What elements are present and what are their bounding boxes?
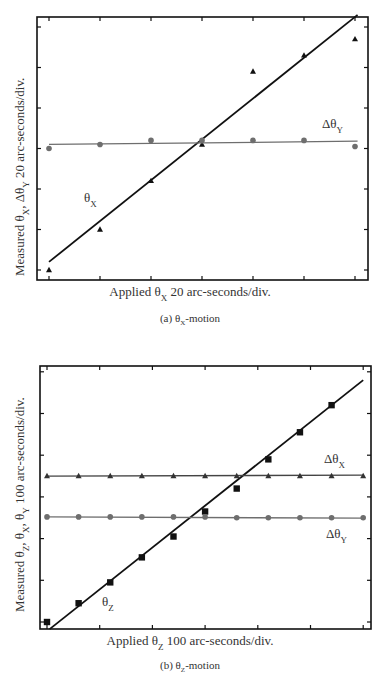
chart-a-plot (0, 0, 380, 330)
data-point-square (75, 600, 81, 606)
data-point-square (328, 402, 334, 408)
data-point-triangle (97, 226, 103, 231)
data-point-circle (234, 515, 240, 521)
data-point-square (297, 429, 303, 435)
series-θZ (44, 380, 363, 629)
figure-a-theta-x-motion: Measured θX, ΔθY 20 arc-seconds/div. App… (0, 0, 380, 330)
data-point-circle (297, 515, 303, 521)
figure-b-theta-z-motion: Measured θZ, θX, θY 100 arc-seconds/div.… (0, 330, 380, 683)
series-ΔθX (44, 473, 366, 478)
chart-a-caption: (a) θX-motion (0, 312, 380, 324)
data-point-square (170, 533, 176, 539)
data-point-circle (301, 138, 307, 144)
chart-b-y-axis-label: Measured θZ, θX, θY 100 arc-seconds/div. (12, 397, 28, 612)
plot-frame (37, 17, 368, 280)
chart-a-x-axis-label: Applied θX 20 arc-seconds/div. (0, 284, 380, 300)
data-point-circle (148, 138, 154, 144)
data-point-square (44, 619, 50, 625)
chart-b-plot (0, 330, 380, 683)
data-point-circle (352, 144, 358, 150)
data-point-circle (199, 138, 205, 144)
chart-a-series-label-delta-theta-y: ΔθY (322, 116, 343, 132)
data-point-square (107, 579, 113, 585)
data-point-circle (329, 515, 335, 521)
data-point-triangle (301, 52, 307, 57)
chart-b-series-label-theta-z: θZ (102, 594, 114, 610)
data-point-circle (266, 515, 272, 521)
chart-b-caption: (b) θZ-motion (0, 659, 380, 671)
fit-line (50, 380, 364, 629)
chart-b-series-label-delta-theta-x: ΔθX (324, 451, 345, 467)
data-point-circle (76, 514, 82, 520)
chart-b-series-label-delta-theta-y: ΔθY (326, 526, 347, 542)
data-point-square (234, 485, 240, 491)
data-point-square (265, 456, 271, 462)
data-point-circle (46, 146, 52, 152)
data-point-circle (360, 515, 366, 521)
chart-a-series-label-theta-x: θX (84, 190, 97, 206)
data-point-circle (44, 514, 50, 520)
chart-a-y-axis-label: Measured θX, ΔθY 20 arc-seconds/div. (12, 78, 28, 276)
data-point-triangle (46, 267, 52, 272)
data-point-circle (97, 142, 103, 148)
data-point-circle (250, 138, 256, 144)
data-point-circle (107, 514, 113, 520)
data-point-circle (202, 514, 208, 520)
data-point-circle (171, 514, 177, 520)
data-point-circle (139, 514, 145, 520)
plot-frame (40, 366, 371, 629)
data-point-triangle (352, 36, 358, 41)
data-point-square (202, 508, 208, 514)
data-point-square (139, 554, 145, 560)
series-ΔθY (44, 514, 366, 520)
chart-b-x-axis-label: Applied θZ 100 arc-seconds/div. (0, 633, 380, 649)
data-point-triangle (250, 68, 256, 73)
